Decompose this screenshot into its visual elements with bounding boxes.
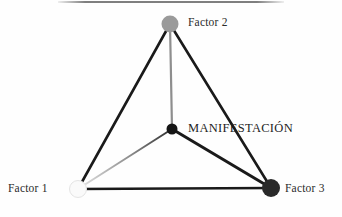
node-label-factor2: Factor 2: [188, 16, 228, 28]
node-factor2[interactable]: [162, 16, 179, 33]
edge-manifestacion-factor3: [172, 129, 271, 188]
edge-factor2-factor1: [78, 24, 170, 189]
edge-factor2-manifestacion: [170, 24, 172, 129]
node-factor1[interactable]: [70, 181, 87, 198]
node-label-manifestacion: MANIFESTACIÓN: [188, 121, 293, 136]
node-label-factor3: Factor 3: [285, 182, 325, 194]
edge-factor2-factor3: [170, 24, 271, 188]
node-label-factor1: Factor 1: [8, 182, 48, 194]
node-factor3[interactable]: [262, 179, 280, 197]
edge-manifestacion-factor1: [78, 129, 172, 189]
node-manifestacion[interactable]: [167, 124, 178, 135]
edge-factor1-factor3: [78, 188, 271, 189]
diagram-canvas: Factor 2 Factor 1 Factor 3 MANIFESTACIÓN: [0, 0, 342, 217]
